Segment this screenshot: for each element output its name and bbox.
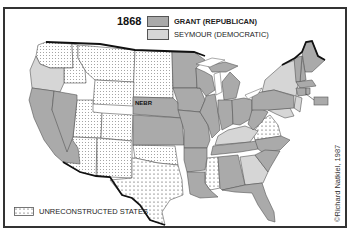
legend-label-unreconstructed: UNRECONSTRUCTED STATES (39, 207, 148, 216)
state-kansas (133, 115, 184, 145)
state-montana (78, 45, 135, 82)
state-wyoming (93, 80, 134, 106)
copyright-credit: ©Richard Natkiel, 1987 (333, 145, 342, 222)
state-new-jersey (294, 96, 302, 112)
state-utah (73, 100, 102, 138)
state-colorado (101, 113, 133, 141)
us-map (0, 0, 354, 233)
state-connecticut (296, 88, 306, 96)
state-florida (222, 183, 275, 222)
state-inset-box (314, 97, 328, 105)
state-new-york (262, 60, 298, 96)
state-mississippi (205, 157, 220, 190)
state-dakota (133, 50, 173, 98)
state-arkansas (184, 148, 207, 172)
state-michigan (222, 72, 240, 100)
legend-swatch-unreconstructed (14, 207, 34, 216)
inset-pointer-line (306, 94, 314, 100)
nebraska-label: NEBR (135, 100, 152, 106)
state-iowa (173, 88, 205, 112)
state-indiana (218, 100, 233, 130)
state-new-mexico (97, 138, 132, 178)
state-washington (36, 42, 73, 68)
lake-michigan (214, 72, 222, 95)
state-rhode-island (306, 88, 310, 95)
